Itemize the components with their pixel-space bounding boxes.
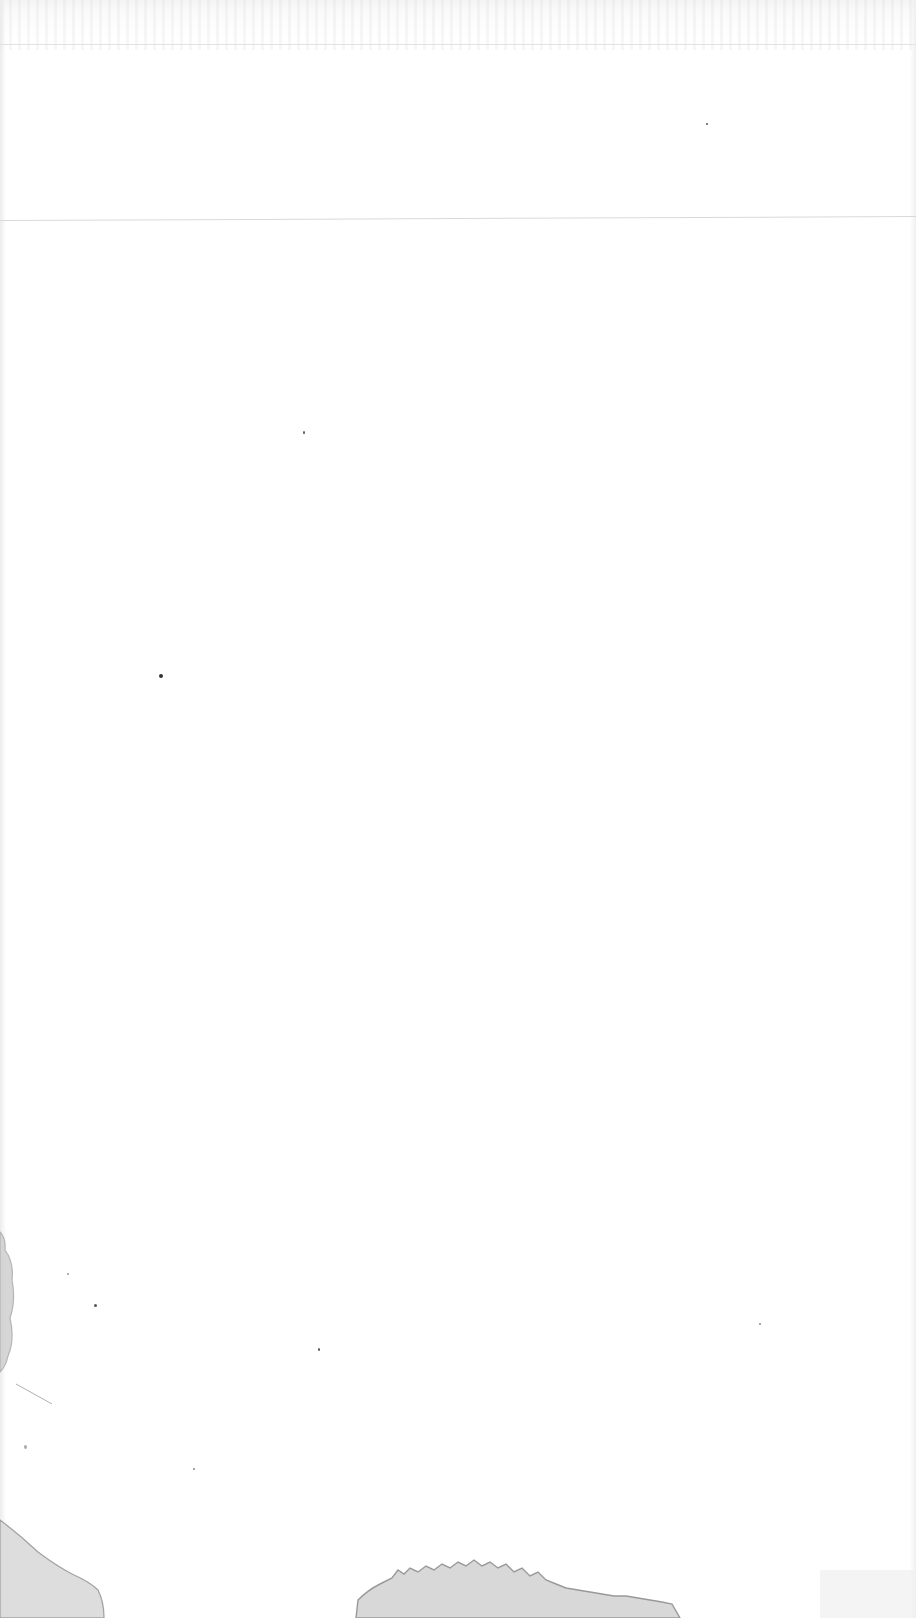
scanned-page (0, 0, 916, 1618)
water-stain-marks (0, 0, 916, 1618)
